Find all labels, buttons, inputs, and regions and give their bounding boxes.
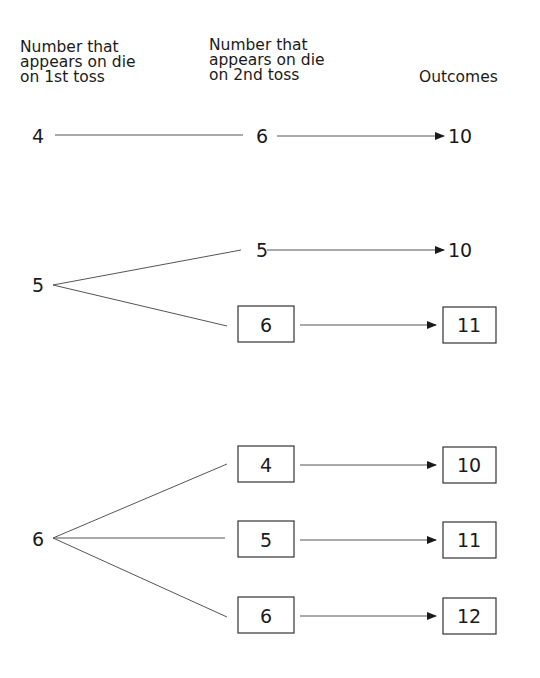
second-toss-value: 5	[256, 239, 268, 261]
tree-diagram: 4 6 10 5 5 10 6 11 6 4 10 5 11 6	[0, 0, 540, 678]
outcome-value: 11	[457, 529, 481, 551]
second-toss-value: 6	[260, 314, 272, 336]
outcome-value: 10	[457, 454, 481, 476]
branch-first-5: 5 5 10 6 11	[32, 239, 496, 343]
branch-line	[53, 538, 227, 617]
branch-first-6: 6 4 10 5 11 6 12	[32, 446, 496, 634]
second-toss-value: 5	[260, 529, 272, 551]
outcome-value: 10	[448, 239, 472, 261]
first-toss-value: 4	[32, 125, 44, 147]
first-toss-value: 5	[32, 274, 44, 296]
first-toss-value: 6	[32, 528, 44, 550]
branch-line	[53, 285, 227, 326]
second-toss-value: 6	[256, 125, 268, 147]
branch-line	[53, 464, 227, 538]
branch-first-4: 4 6 10	[32, 125, 472, 147]
second-toss-value: 6	[260, 605, 272, 627]
outcome-value: 10	[448, 125, 472, 147]
branch-line	[53, 250, 241, 285]
second-toss-value: 4	[260, 454, 272, 476]
outcome-value: 12	[457, 605, 481, 627]
outcome-value: 11	[457, 314, 481, 336]
